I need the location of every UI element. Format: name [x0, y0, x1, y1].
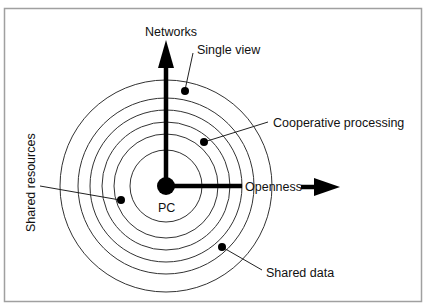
diagram-canvas: Networks Single view Cooperative process…: [0, 0, 428, 308]
pc-center-dot: [157, 177, 175, 195]
pc-label: PC: [158, 201, 175, 215]
shared-resources-label: Shared resources: [24, 133, 38, 232]
openness-label: Openness: [245, 180, 302, 194]
single-view-label: Single view: [197, 43, 261, 57]
shared-data-label: Shared data: [266, 266, 334, 280]
cooperative-processing-label: Cooperative processing: [273, 116, 404, 130]
networks-label: Networks: [145, 25, 197, 39]
